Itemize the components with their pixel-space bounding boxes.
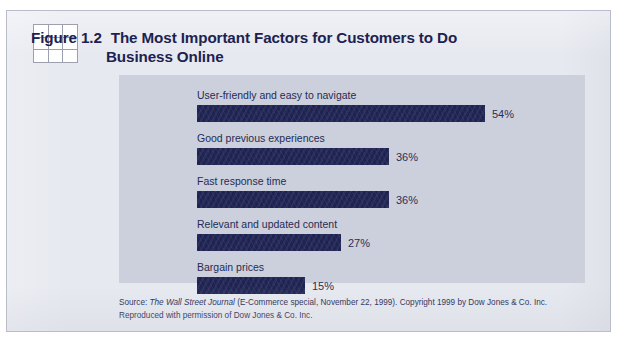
- bar-value: 36%: [396, 194, 418, 206]
- bar-chart: User-friendly and easy to navigate 54% G…: [197, 89, 577, 296]
- bar-fill: [197, 234, 341, 251]
- figure-page: Figure 1.2The Most Important Factors for…: [6, 10, 611, 332]
- bar-value: 54%: [492, 108, 514, 120]
- source-note: Source: The Wall Street Journal (E-Comme…: [119, 297, 589, 322]
- bar-row: 36%: [197, 191, 577, 208]
- bar-fill: [197, 277, 305, 294]
- bar-row: 54%: [197, 105, 577, 122]
- bar-row: 36%: [197, 148, 577, 165]
- bar-value: 15%: [312, 280, 334, 292]
- bar-label: Bargain prices: [197, 261, 577, 275]
- chart-panel: User-friendly and easy to navigate 54% G…: [119, 75, 585, 283]
- figure-number: Figure 1.2: [31, 29, 102, 46]
- bar-row: 15%: [197, 277, 577, 294]
- bar-label: Good previous experiences: [197, 132, 577, 146]
- figure-title: Figure 1.2The Most Important Factors for…: [31, 28, 551, 66]
- bar-label: User-friendly and easy to navigate: [197, 89, 577, 103]
- bar-group: User-friendly and easy to navigate 54%: [197, 89, 577, 124]
- bar-label: Fast response time: [197, 175, 577, 189]
- bar-group: Good previous experiences 36%: [197, 132, 577, 167]
- figure-title-line2: Business Online: [106, 47, 551, 66]
- bar-fill: [197, 105, 485, 122]
- bar-group: Relevant and updated content 27%: [197, 218, 577, 253]
- bar-fill: [197, 148, 389, 165]
- bar-label: Relevant and updated content: [197, 218, 577, 232]
- source-publication: The Wall Street Journal: [150, 298, 235, 307]
- bar-group: Fast response time 36%: [197, 175, 577, 210]
- bar-group: Bargain prices 15%: [197, 261, 577, 296]
- bar-row: 27%: [197, 234, 577, 251]
- bar-value: 36%: [396, 151, 418, 163]
- source-prefix: Source:: [119, 298, 150, 307]
- figure-title-line1: The Most Important Factors for Customers…: [111, 29, 457, 46]
- bar-value: 27%: [348, 237, 370, 249]
- bar-fill: [197, 191, 389, 208]
